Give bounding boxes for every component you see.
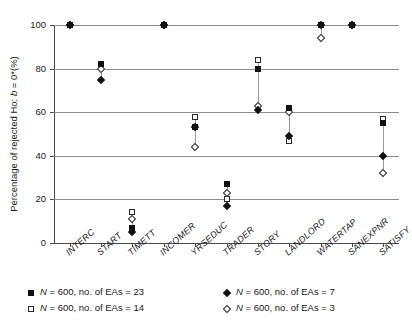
data-point-filled-square: [161, 22, 167, 28]
data-point-filled-square: [255, 66, 261, 72]
y-tick-label: 100: [20, 20, 46, 30]
data-point-open-square: [192, 114, 198, 120]
data-point-filled-diamond: [379, 152, 387, 160]
data-point-filled-square: [67, 22, 73, 28]
chart-legend: N = 600, no. of EAs = 23N = 600, no. of …: [28, 286, 400, 326]
y-axis-title: Percentage of rejected Ho: b = 0*(%): [8, 56, 19, 212]
legend-label: N = 600, no. of EAs = 7: [236, 286, 335, 297]
data-point-open-square: [255, 57, 261, 63]
data-point-filled-square: [224, 181, 230, 187]
legend-label: N = 600, no. of EAs = 14: [40, 302, 144, 313]
data-point-filled-square: [129, 225, 135, 231]
y-tick-mark: [50, 243, 54, 244]
data-point-filled-square: [380, 120, 386, 126]
data-point-open-diamond: [379, 169, 387, 177]
y-axis-title-wrap: Percentage of rejected Ho: b = 0*(%): [6, 25, 20, 243]
legend-item: N = 600, no. of EAs = 14: [28, 302, 144, 313]
data-point-filled-diamond: [97, 75, 105, 83]
legend-label: N = 600, no. of EAs = 3: [236, 302, 335, 313]
data-point-filled-square: [349, 22, 355, 28]
data-point-filled-square: [286, 105, 292, 111]
y-tick-label: 80: [20, 64, 46, 74]
data-point-filled-square: [192, 124, 198, 130]
legend-marker-open-diamond: [223, 305, 231, 313]
category-connector-line: [383, 119, 384, 174]
legend-marker-open-square: [28, 306, 34, 312]
y-tick-label: 60: [20, 107, 46, 117]
legend-marker-filled-diamond: [223, 289, 231, 297]
y-tick-label: 0: [20, 238, 46, 248]
y-tick-label: 20: [20, 194, 46, 204]
data-point-open-diamond: [128, 215, 136, 223]
legend-label: N = 600, no. of EAs = 23: [40, 286, 144, 297]
data-point-filled-square: [98, 61, 104, 67]
y-tick-label: 40: [20, 151, 46, 161]
data-point-filled-diamond: [222, 202, 230, 210]
legend-item: N = 600, no. of EAs = 3: [224, 302, 335, 313]
data-point-open-diamond: [316, 34, 324, 42]
legend-marker-filled-square: [28, 290, 34, 296]
legend-item: N = 600, no. of EAs = 7: [224, 286, 335, 297]
plot-area: [54, 25, 399, 243]
data-point-open-diamond: [191, 143, 199, 151]
legend-item: N = 600, no. of EAs = 23: [28, 286, 144, 297]
data-point-filled-square: [318, 22, 324, 28]
